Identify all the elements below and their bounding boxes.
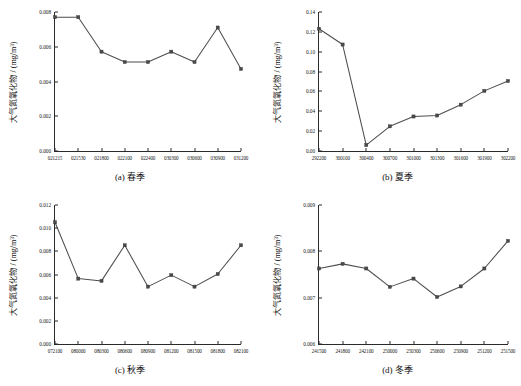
x-tick-label: 302200 bbox=[501, 155, 515, 161]
y-tick-mark bbox=[319, 297, 322, 298]
data-point-marker bbox=[436, 295, 439, 298]
x-tick-mark bbox=[171, 148, 172, 151]
x-tick-label: 250300 bbox=[406, 348, 420, 354]
y-tick-mark bbox=[55, 251, 58, 252]
y-tick-label: 0.000 bbox=[39, 148, 51, 154]
plot-area-a: 0.0000.0020.0040.0060.008021215021530021… bbox=[54, 12, 241, 152]
y-tick-mark bbox=[319, 91, 322, 92]
y-tick-label: 0.008 bbox=[39, 248, 51, 254]
y-tick-label: 0.006 bbox=[303, 341, 315, 347]
x-tick-mark bbox=[101, 148, 102, 151]
y-tick-mark bbox=[319, 12, 322, 13]
x-tick-mark bbox=[508, 341, 509, 344]
x-tick-mark bbox=[78, 341, 79, 344]
y-tick-mark bbox=[55, 320, 58, 321]
x-tick-mark bbox=[460, 341, 461, 344]
data-point-marker bbox=[365, 143, 368, 146]
x-tick-label: 080900 bbox=[141, 348, 155, 354]
x-tick-label: 030600 bbox=[187, 155, 201, 161]
data-point-marker bbox=[216, 272, 219, 275]
x-tick-label: 300700 bbox=[383, 155, 397, 161]
y-tick-label: 0.00 bbox=[306, 148, 315, 154]
y-tick-label: 0.14 bbox=[306, 9, 315, 15]
x-tick-label: 251500 bbox=[501, 348, 515, 354]
x-tick-mark bbox=[342, 148, 343, 151]
x-tick-mark bbox=[460, 148, 461, 151]
x-tick-mark bbox=[437, 148, 438, 151]
y-tick-label: 0.008 bbox=[303, 248, 315, 254]
data-point-marker bbox=[239, 67, 242, 70]
y-axis-label: 大气氮氧化物 / (mg/m³) bbox=[7, 235, 18, 316]
x-tick-mark bbox=[389, 148, 390, 151]
x-tick-label: 250600 bbox=[430, 348, 444, 354]
data-point-marker bbox=[459, 103, 462, 106]
data-point-marker bbox=[412, 115, 415, 118]
x-tick-label: 081200 bbox=[164, 348, 178, 354]
x-tick-label: 021215 bbox=[48, 155, 62, 161]
y-tick-mark bbox=[319, 111, 322, 112]
series-line bbox=[319, 29, 508, 145]
x-tick-mark bbox=[413, 148, 414, 151]
x-tick-label: 080000 bbox=[71, 348, 85, 354]
y-tick-label: 0.008 bbox=[39, 9, 51, 15]
y-tick-label: 0.06 bbox=[306, 88, 315, 94]
data-point-marker bbox=[100, 50, 103, 53]
panel-caption-c: (c) 秋季 bbox=[0, 363, 260, 376]
data-point-marker bbox=[170, 50, 173, 53]
x-tick-mark bbox=[148, 341, 149, 344]
y-tick-label: 0.006 bbox=[39, 272, 51, 278]
y-tick-label: 0.012 bbox=[39, 202, 51, 208]
data-point-marker bbox=[170, 274, 173, 277]
x-tick-mark bbox=[508, 148, 509, 151]
x-tick-mark bbox=[194, 341, 195, 344]
y-tick-label: 0.004 bbox=[39, 295, 51, 301]
y-tick-mark bbox=[319, 71, 322, 72]
y-tick-label: 0.009 bbox=[303, 202, 315, 208]
x-tick-label: 241500 bbox=[312, 348, 326, 354]
y-tick-label: 0.10 bbox=[306, 49, 315, 55]
x-tick-label: 022400 bbox=[141, 155, 155, 161]
plot-area-b: 0.000.020.040.060.080.100.120.1429220030… bbox=[318, 12, 508, 152]
x-tick-mark bbox=[413, 341, 414, 344]
y-tick-mark bbox=[55, 46, 58, 47]
data-point-marker bbox=[317, 267, 320, 270]
y-tick-mark bbox=[319, 51, 322, 52]
x-tick-label: 030900 bbox=[211, 155, 225, 161]
data-point-marker bbox=[341, 43, 344, 46]
x-tick-label: 301300 bbox=[430, 155, 444, 161]
x-tick-label: 242100 bbox=[359, 348, 373, 354]
y-tick-label: 0.02 bbox=[306, 128, 315, 134]
x-tick-label: 072100 bbox=[48, 348, 62, 354]
y-tick-mark bbox=[319, 131, 322, 132]
x-tick-mark bbox=[78, 148, 79, 151]
x-tick-label: 300400 bbox=[359, 155, 373, 161]
x-tick-mark bbox=[366, 148, 367, 151]
panel-caption-a: (a) 春季 bbox=[0, 170, 260, 183]
x-tick-label: 081500 bbox=[187, 348, 201, 354]
x-tick-mark bbox=[241, 148, 242, 151]
y-tick-label: 0.04 bbox=[306, 108, 315, 114]
y-tick-mark bbox=[55, 12, 58, 13]
x-tick-label: 021800 bbox=[94, 155, 108, 161]
data-point-marker bbox=[146, 285, 149, 288]
y-tick-label: 0.000 bbox=[39, 341, 51, 347]
data-point-marker bbox=[317, 27, 320, 30]
x-tick-mark bbox=[194, 148, 195, 151]
data-point-marker bbox=[216, 26, 219, 29]
x-tick-label: 301600 bbox=[454, 155, 468, 161]
x-tick-mark bbox=[389, 341, 390, 344]
x-tick-label: 300100 bbox=[335, 155, 349, 161]
x-tick-label: 241800 bbox=[335, 348, 349, 354]
data-point-marker bbox=[53, 221, 56, 224]
x-tick-mark bbox=[217, 148, 218, 151]
x-tick-label: 251200 bbox=[477, 348, 491, 354]
figure-seasonal-nox-charts: 大气氮氧化物 / (mg/m³) 0.0000.0020.0040.0060.0… bbox=[0, 0, 521, 386]
series-line bbox=[55, 222, 241, 286]
y-tick-label: 0.002 bbox=[39, 113, 51, 119]
y-tick-label: 0.12 bbox=[306, 29, 315, 35]
data-point-marker bbox=[193, 285, 196, 288]
series-svg-a bbox=[55, 12, 241, 151]
data-point-marker bbox=[483, 267, 486, 270]
x-tick-mark bbox=[148, 148, 149, 151]
y-tick-mark bbox=[55, 274, 58, 275]
